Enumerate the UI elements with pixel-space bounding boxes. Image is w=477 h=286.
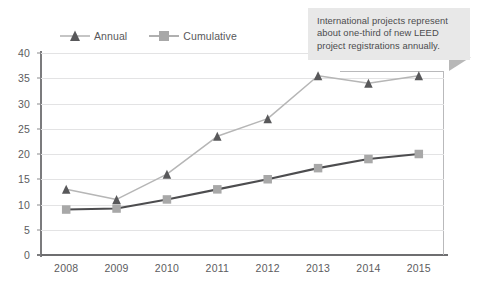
annotation-callout: International projects represent about o… bbox=[308, 8, 470, 60]
chart-screenshot: Annual Cumulative 0510152025303540 20082… bbox=[0, 0, 477, 286]
series-cumulative bbox=[62, 150, 423, 214]
data-point-square[interactable] bbox=[415, 150, 424, 159]
series-line bbox=[66, 76, 419, 200]
data-point-triangle[interactable] bbox=[213, 132, 222, 141]
data-point-square[interactable] bbox=[364, 155, 373, 164]
data-point-square[interactable] bbox=[314, 164, 323, 173]
data-point-square[interactable] bbox=[163, 195, 172, 204]
annotation-text: International projects represent about o… bbox=[317, 15, 461, 52]
data-point-square[interactable] bbox=[213, 185, 222, 194]
data-point-square[interactable] bbox=[62, 205, 71, 214]
data-point-square[interactable] bbox=[112, 204, 121, 213]
data-point-square[interactable] bbox=[263, 175, 272, 184]
